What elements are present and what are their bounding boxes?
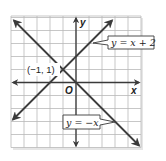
callout-line2-text: y = −x <box>65 117 99 128</box>
intersection-label: (−1, 1) <box>27 64 55 75</box>
x-axis-label: x <box>130 85 137 96</box>
coordinate-graph: y x O (−1, 1) y = x + 2 y = −x <box>0 0 166 161</box>
y-axis-label: y <box>79 17 86 28</box>
origin-label: O <box>65 85 73 96</box>
callout-line1-text: y = x + 2 <box>110 37 156 48</box>
